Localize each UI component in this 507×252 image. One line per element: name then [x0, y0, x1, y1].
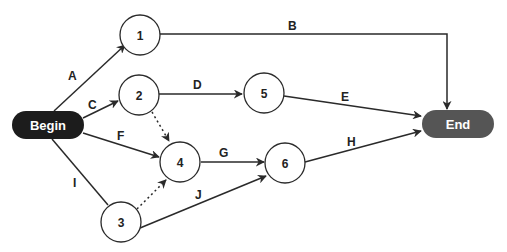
- edge-label-b: B: [288, 19, 297, 33]
- node-3-label: 3: [118, 216, 125, 230]
- edge-label-a: A: [68, 69, 77, 83]
- edge-b: [160, 34, 447, 109]
- node-1: 1: [120, 15, 160, 55]
- node-2: 2: [119, 75, 159, 115]
- begin-terminal: Begin: [12, 111, 84, 139]
- node-6-label: 6: [282, 157, 289, 171]
- node-5: 5: [244, 73, 284, 113]
- edge-h: [305, 131, 421, 162]
- end-label: End: [446, 117, 471, 132]
- node-1-label: 1: [137, 29, 144, 43]
- edge-i: [52, 139, 108, 205]
- edge-label-g: G: [219, 146, 228, 160]
- edge-label-i: I: [73, 176, 76, 190]
- node-4: 4: [160, 142, 200, 182]
- edge-j: [140, 176, 266, 228]
- end-terminal: End: [422, 110, 494, 138]
- edge-dummy-2-4: [152, 112, 169, 141]
- node-5-label: 5: [261, 87, 268, 101]
- edge-label-c: C: [88, 98, 97, 112]
- node-4-label: 4: [177, 156, 184, 170]
- node-2-label: 2: [136, 89, 143, 103]
- node-6: 6: [265, 143, 305, 183]
- edge-dummy-3-4: [137, 180, 166, 209]
- edge-e: [284, 96, 421, 116]
- network-diagram: A B C D E F G H I J Begin End 1 2 3: [0, 0, 507, 252]
- edge-label-d: D: [193, 78, 202, 92]
- edges: [52, 34, 447, 228]
- edge-label-e: E: [341, 90, 349, 104]
- edge-label-f: F: [117, 129, 124, 143]
- begin-label: Begin: [30, 118, 66, 133]
- node-3: 3: [101, 202, 141, 242]
- edge-labels: A B C D E F G H I J: [68, 19, 356, 202]
- nodes: 1 2 3 4 5 6: [101, 15, 305, 242]
- edge-label-j: J: [195, 188, 202, 202]
- edge-label-h: H: [347, 135, 356, 149]
